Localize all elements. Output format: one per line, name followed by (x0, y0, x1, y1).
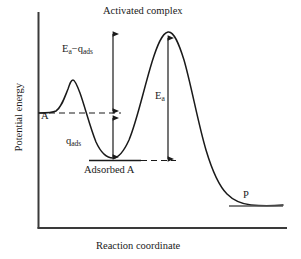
potential-energy-curve (39, 32, 283, 206)
ea-minus-qads-sub-ads: ads (83, 47, 93, 56)
label-product-p: P (243, 190, 249, 201)
label-adsorbed-a: Adsorbed A (84, 165, 134, 176)
x-axis-label: Reaction coordinate (96, 241, 180, 252)
qads-sub-ads: ads (71, 139, 81, 148)
y-axis-label: Potential energy (14, 67, 25, 167)
ea-minus-qads-minus-q: −q (72, 43, 83, 54)
diagram-canvas (0, 0, 301, 259)
label-reactant-a: A (41, 111, 49, 122)
label-ea: Ea (155, 91, 165, 102)
potential-energy-diagram: Activated complex Ea−qads Ea qads Adsorb… (0, 0, 301, 259)
energy-profile-curve (39, 32, 283, 206)
ea-sub-a: a (161, 94, 164, 103)
label-ea-minus-qads: Ea−qads (62, 44, 93, 55)
label-activated-complex: Activated complex (103, 6, 183, 17)
label-qads: qads (66, 136, 81, 147)
